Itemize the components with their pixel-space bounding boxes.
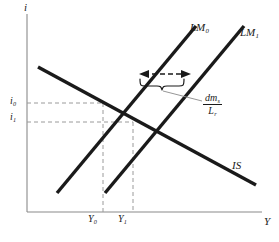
annotation-numerator-subscript: s (218, 97, 220, 104)
curves-group (38, 26, 256, 193)
tick-label-y1-base: Y (118, 213, 124, 224)
tick-label-y0-subscript: 0 (94, 218, 97, 225)
shift-arrow-group (139, 70, 191, 78)
tick-label-i0-subscript: 0 (13, 100, 16, 107)
curve-label-lm1-base: LM (240, 26, 255, 38)
annotation-denominator-subscript: r (214, 110, 216, 117)
tick-label-y1: Y1 (118, 214, 127, 224)
curve-label-lm0-base: LM (190, 21, 205, 33)
tick-label-i1-subscript: 1 (13, 116, 16, 123)
tick-label-y0: Y0 (88, 214, 97, 224)
curve-label-is-base: IS (232, 159, 241, 171)
y-axis-label: i (24, 2, 27, 13)
shift-magnitude-annotation: dms Lr (203, 93, 222, 116)
shift-arrow-head-left (139, 70, 149, 78)
tick-label-i0: i0 (10, 96, 16, 106)
curve-label-lm1-subscript: 1 (256, 32, 259, 39)
annotation-numerator: dms (203, 93, 222, 104)
axis-group (27, 14, 262, 212)
tick-label-i1: i1 (10, 112, 16, 122)
chart-canvas (0, 0, 279, 242)
tick-label-y1-subscript: 1 (124, 218, 127, 225)
isl-lm-chart-figure: i Y LM0 LM1 IS i0 i1 Y0 Y1 dms Lr (0, 0, 279, 242)
tick-label-y0-base: Y (88, 213, 94, 224)
annotation-numerator-base: dm (205, 92, 217, 103)
shift-arrow-head-right (181, 70, 191, 78)
curve-label-lm1: LM1 (240, 27, 259, 38)
x-axis-label: Y (264, 216, 270, 227)
curve-label-is: IS (232, 160, 241, 171)
curve-label-lm0: LM0 (190, 22, 209, 33)
annotation-denominator: Lr (203, 105, 222, 116)
curve-label-lm0-subscript: 0 (206, 27, 209, 34)
